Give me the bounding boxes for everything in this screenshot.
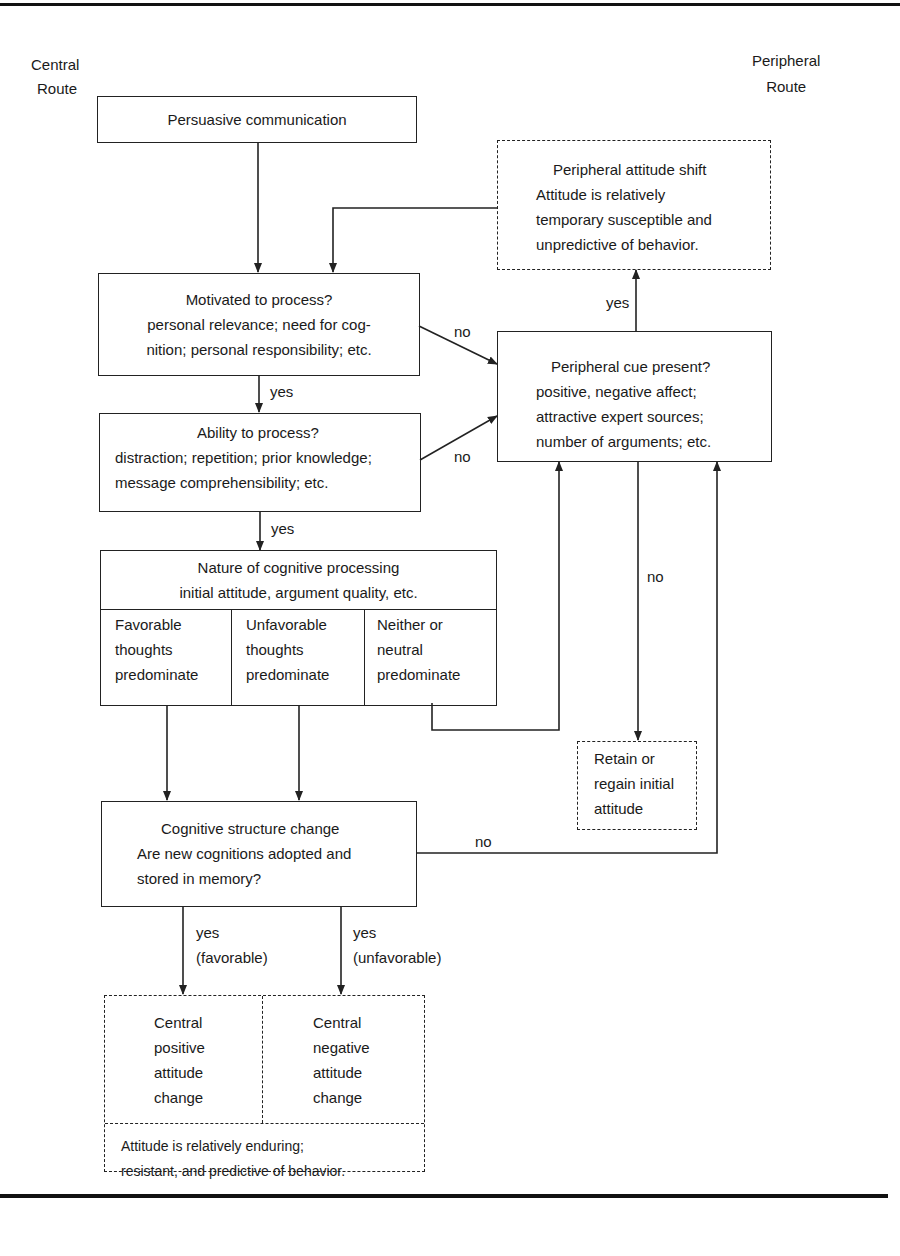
negative-line2: negative bbox=[313, 1035, 424, 1060]
yes-fav-line1: yes bbox=[196, 920, 268, 945]
ability-line3: message comprehensibility; etc. bbox=[115, 470, 420, 495]
central-route-line2: Route bbox=[31, 77, 79, 101]
yes-unfav-line1: yes bbox=[353, 920, 441, 945]
nature-of-processing-box: Nature of cognitive processing initial a… bbox=[100, 550, 497, 706]
central-outcome-group: Central positive attitude change Central… bbox=[104, 995, 425, 1172]
ability-line2: distraction; repetition; prior knowledge… bbox=[115, 445, 420, 470]
peripheral-shift-line4: unpredictive of behavior. bbox=[536, 232, 770, 257]
enduring-line1: Attitude is relatively enduring; bbox=[121, 1134, 424, 1159]
motivated-title: Motivated to process? bbox=[99, 287, 419, 312]
retain-initial-attitude-box: Retain or regain initial attitude bbox=[577, 741, 697, 830]
motivated-yes-label: yes bbox=[270, 379, 293, 404]
central-route-label: Central Route bbox=[31, 53, 79, 101]
yes-unfav-line2: (unfavorable) bbox=[353, 945, 441, 970]
neutral-line1: Neither or bbox=[377, 612, 496, 637]
neutral-line2: neutral bbox=[377, 637, 496, 662]
ability-no-label: no bbox=[454, 444, 471, 469]
peripheral-shift-line3: temporary susceptible and bbox=[536, 207, 770, 232]
positive-line4: change bbox=[154, 1085, 262, 1110]
favorable-line1: Favorable bbox=[115, 612, 231, 637]
retain-line2: regain initial bbox=[594, 771, 696, 796]
favorable-line2: thoughts bbox=[115, 637, 231, 662]
cognitive-change-line2: Are new cognitions adopted and bbox=[137, 841, 416, 866]
favorable-thoughts-cell: Favorable thoughts predominate bbox=[101, 610, 232, 705]
peripheral-shift-title: Peripheral attitude shift bbox=[536, 157, 770, 182]
cue-yes-label: yes bbox=[606, 290, 629, 315]
neutral-line3: predominate bbox=[377, 662, 496, 687]
motivated-no-label: no bbox=[454, 319, 471, 344]
peripheral-cue-box: Peripheral cue present? positive, negati… bbox=[497, 331, 772, 462]
positive-line2: positive bbox=[154, 1035, 262, 1060]
central-negative-cell: Central negative attitude change bbox=[263, 996, 424, 1123]
motivated-line2: personal relevance; need for cog- bbox=[99, 312, 419, 337]
negative-line4: change bbox=[313, 1085, 424, 1110]
change-yes-favorable-label: yes (favorable) bbox=[196, 920, 268, 970]
positive-line1: Central bbox=[154, 1010, 262, 1035]
cognitive-change-line3: stored in memory? bbox=[137, 866, 416, 891]
change-no-label: no bbox=[475, 829, 492, 854]
ability-yes-label: yes bbox=[271, 516, 294, 541]
nature-title: Nature of cognitive processing bbox=[101, 555, 496, 580]
persuasive-communication-text: Persuasive communication bbox=[167, 111, 346, 128]
central-route-line1: Central bbox=[31, 53, 79, 77]
peripheral-cue-line2: positive, negative affect; bbox=[536, 379, 771, 404]
unfavorable-thoughts-cell: Unfavorable thoughts predominate bbox=[232, 610, 365, 705]
change-yes-unfavorable-label: yes (unfavorable) bbox=[353, 920, 441, 970]
central-positive-cell: Central positive attitude change bbox=[105, 996, 263, 1123]
ability-to-process-box: Ability to process? distraction; repetit… bbox=[99, 413, 421, 512]
nature-subtitle: initial attitude, argument quality, etc. bbox=[101, 580, 496, 605]
motivated-to-process-box: Motivated to process? personal relevance… bbox=[98, 273, 420, 376]
retain-line3: attitude bbox=[594, 796, 696, 821]
cue-no-label: no bbox=[647, 564, 664, 589]
peripheral-shift-line2: Attitude is relatively bbox=[536, 182, 770, 207]
ability-title: Ability to process? bbox=[115, 420, 420, 445]
peripheral-cue-line3: attractive expert sources; bbox=[536, 404, 771, 429]
unfavorable-line2: thoughts bbox=[246, 637, 364, 662]
persuasive-communication-box: Persuasive communication bbox=[97, 96, 417, 143]
enduring-line2: resistant, and predictive of behavior. bbox=[121, 1159, 424, 1184]
negative-line3: attitude bbox=[313, 1060, 424, 1085]
cognitive-change-title: Cognitive structure change bbox=[137, 816, 416, 841]
peripheral-cue-line4: number of arguments; etc. bbox=[536, 429, 771, 454]
negative-line1: Central bbox=[313, 1010, 424, 1035]
positive-line3: attitude bbox=[154, 1060, 262, 1085]
unfavorable-line1: Unfavorable bbox=[246, 612, 364, 637]
neutral-thoughts-cell: Neither or neutral predominate bbox=[365, 610, 496, 705]
peripheral-attitude-shift-box: Peripheral attitude shift Attitude is re… bbox=[497, 140, 771, 270]
peripheral-route-line1: Peripheral bbox=[752, 48, 820, 74]
peripheral-route-label: Peripheral Route bbox=[752, 48, 820, 100]
yes-fav-line2: (favorable) bbox=[196, 945, 268, 970]
peripheral-route-line2: Route bbox=[752, 74, 820, 100]
favorable-line3: predominate bbox=[115, 662, 231, 687]
retain-line1: Retain or bbox=[594, 746, 696, 771]
peripheral-cue-title: Peripheral cue present? bbox=[536, 354, 771, 379]
motivated-line3: nition; personal responsibility; etc. bbox=[99, 337, 419, 362]
unfavorable-line3: predominate bbox=[246, 662, 364, 687]
nature-title-section: Nature of cognitive processing initial a… bbox=[101, 551, 496, 610]
nature-outcomes-row: Favorable thoughts predominate Unfavorab… bbox=[101, 610, 496, 705]
cognitive-structure-change-box: Cognitive structure change Are new cogni… bbox=[101, 801, 417, 907]
enduring-attitude-cell: Attitude is relatively enduring; resista… bbox=[105, 1123, 424, 1171]
